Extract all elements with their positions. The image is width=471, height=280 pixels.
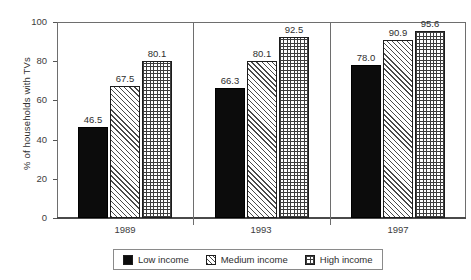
panel-divider <box>193 22 194 225</box>
bar-value-label: 80.1 <box>241 49 283 59</box>
y-axis-tick-label: 20 <box>21 174 47 184</box>
bar <box>279 37 309 218</box>
legend-item-low-income: Low income <box>123 254 189 265</box>
bar-chart-figure: % of households with TVs 020406080100 46… <box>0 0 471 280</box>
bar-value-label: 46.5 <box>72 115 114 125</box>
legend-swatch-medium-income-icon <box>206 255 216 265</box>
bar <box>415 31 445 218</box>
bar-value-label: 78.0 <box>345 53 387 63</box>
x-axis-group-label: 1997 <box>330 224 466 235</box>
y-axis-tick-label: 100 <box>21 17 47 27</box>
legend-label-low-income: Low income <box>138 254 189 265</box>
bar <box>247 61 277 218</box>
y-axis-tick-label: 40 <box>21 135 47 145</box>
y-axis-tick-label: 60 <box>21 95 47 105</box>
panel-divider <box>330 22 331 225</box>
y-axis-tick-label: 0 <box>21 213 47 223</box>
bar-value-label: 92.5 <box>273 25 315 35</box>
chart-legend: Low income Medium income High income <box>113 249 383 270</box>
legend-swatch-low-income-icon <box>123 255 133 265</box>
legend-item-high-income: High income <box>305 254 373 265</box>
bar-value-label: 67.5 <box>104 74 146 84</box>
x-axis-group-label: 1989 <box>57 224 193 235</box>
bar <box>78 127 108 218</box>
legend-swatch-high-income-icon <box>305 255 315 265</box>
bar <box>215 88 245 218</box>
bar-value-label: 95.6 <box>409 19 451 29</box>
bar-value-label: 80.1 <box>136 49 178 59</box>
legend-label-medium-income: Medium income <box>221 254 288 265</box>
bar-value-label: 66.3 <box>209 76 251 86</box>
bar-value-label: 90.9 <box>377 28 419 38</box>
y-axis-tick-label: 80 <box>21 56 47 66</box>
bar <box>142 61 172 218</box>
bar <box>383 40 413 218</box>
bar <box>351 65 381 218</box>
legend-label-high-income: High income <box>320 254 373 265</box>
legend-item-medium-income: Medium income <box>206 254 288 265</box>
bar <box>110 86 140 218</box>
x-axis-group-label: 1993 <box>193 224 329 235</box>
